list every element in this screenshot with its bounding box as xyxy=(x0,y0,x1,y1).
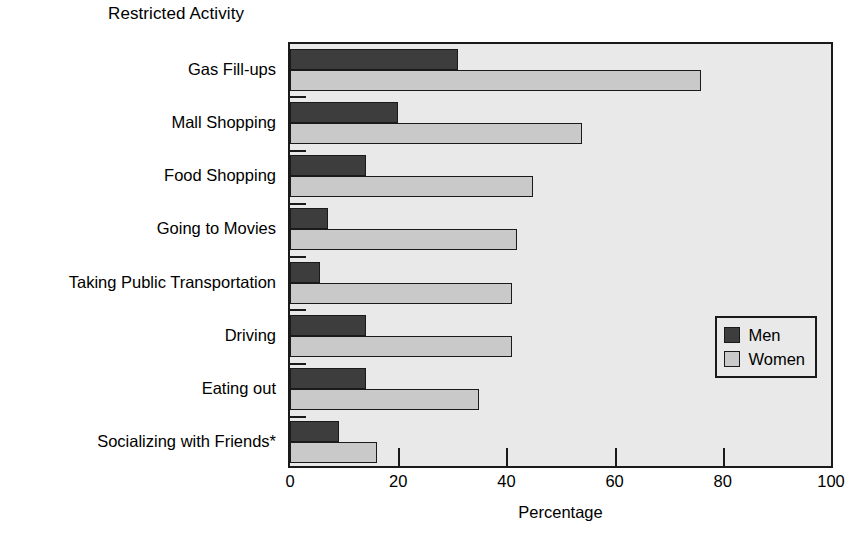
bar-women[interactable] xyxy=(290,123,582,144)
legend-swatch-icon xyxy=(724,351,740,367)
y-axis-tick-label: Eating out xyxy=(202,379,276,398)
x-axis-tick-mark xyxy=(398,448,400,466)
legend-item[interactable]: Men xyxy=(724,323,805,347)
y-axis-tick-label: Mall Shopping xyxy=(171,112,276,131)
bar-women[interactable] xyxy=(290,336,512,357)
legend-label: Women xyxy=(748,350,805,369)
bar-men[interactable] xyxy=(290,368,366,389)
x-axis-title: Percentage xyxy=(288,503,833,522)
bar-men[interactable] xyxy=(290,208,328,229)
x-axis-tick-mark xyxy=(723,448,725,466)
chart-title: Restricted Activity xyxy=(108,4,244,24)
plot-area: MenWomen xyxy=(288,42,833,468)
bar-group xyxy=(290,257,831,310)
y-axis-tick-label: Driving xyxy=(225,325,276,344)
y-axis-category-labels: Gas Fill-upsMall ShoppingFood ShoppingGo… xyxy=(0,42,282,468)
bar-women[interactable] xyxy=(290,70,701,91)
chart-legend: MenWomen xyxy=(715,316,817,378)
bar-group xyxy=(290,151,831,204)
bar-group xyxy=(290,44,831,97)
y-axis-tick-label: Food Shopping xyxy=(164,166,276,185)
bar-group xyxy=(290,417,831,470)
x-axis-tick-label: 0 xyxy=(285,472,294,491)
bar-chart-figure: Restricted Activity Gas Fill-upsMall Sho… xyxy=(0,0,858,545)
y-axis-tick-label: Socializing with Friends* xyxy=(97,432,276,451)
bar-men[interactable] xyxy=(290,315,366,336)
bar-women[interactable] xyxy=(290,442,377,463)
y-axis-tick-label: Gas Fill-ups xyxy=(188,59,276,78)
x-axis-tick-label: 60 xyxy=(605,472,623,491)
bar-group xyxy=(290,204,831,257)
bar-group xyxy=(290,97,831,150)
bar-men[interactable] xyxy=(290,102,398,123)
legend-label: Men xyxy=(748,326,780,345)
x-axis-tick-label: 40 xyxy=(497,472,515,491)
x-axis-tick-mark xyxy=(615,448,617,466)
y-axis-tick-label: Going to Movies xyxy=(157,219,276,238)
bar-men[interactable] xyxy=(290,262,320,283)
bar-women[interactable] xyxy=(290,283,512,304)
bar-men[interactable] xyxy=(290,155,366,176)
x-axis-tick-label: 20 xyxy=(389,472,407,491)
x-axis-tick-mark xyxy=(506,448,508,466)
bar-women[interactable] xyxy=(290,229,517,250)
x-axis-tick-label: 100 xyxy=(817,472,845,491)
y-axis-tick-label: Taking Public Transportation xyxy=(69,272,276,291)
bars-layer xyxy=(290,44,831,466)
bar-women[interactable] xyxy=(290,389,479,410)
legend-item[interactable]: Women xyxy=(724,347,805,371)
bar-men[interactable] xyxy=(290,421,339,442)
bar-women[interactable] xyxy=(290,176,533,197)
bar-men[interactable] xyxy=(290,49,458,70)
x-axis-tick-label: 80 xyxy=(714,472,732,491)
legend-swatch-icon xyxy=(724,327,740,343)
